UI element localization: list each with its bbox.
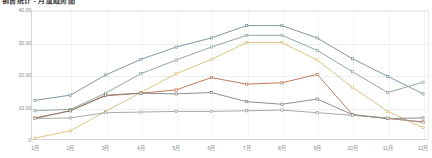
x-axis-tick-label: 1月 — [31, 144, 39, 151]
data-point-marker — [140, 111, 142, 113]
data-point-marker — [175, 93, 177, 95]
data-point-marker — [246, 41, 248, 43]
data-point-marker — [351, 58, 353, 60]
data-point-marker — [387, 117, 389, 119]
data-point-marker — [104, 94, 106, 96]
data-point-marker — [69, 130, 71, 132]
data-point-marker — [210, 58, 212, 60]
series-line-5 — [34, 91, 424, 119]
data-point-marker — [422, 121, 424, 123]
data-point-marker — [210, 110, 212, 112]
data-point-marker — [69, 117, 71, 119]
series-line-2 — [34, 34, 424, 112]
page-title: 销售统计 - 月度趋势图 — [2, 0, 75, 5]
data-point-marker — [316, 112, 318, 114]
data-point-marker — [246, 110, 248, 112]
y-axis-tick-label: 20.00 — [19, 72, 31, 78]
data-point-marker — [104, 74, 106, 76]
data-point-marker — [246, 25, 248, 27]
data-point-marker — [69, 94, 71, 96]
data-point-marker — [316, 73, 318, 75]
x-axis-tick-label: 4月 — [137, 144, 145, 151]
x-axis-tick-label: 8月 — [278, 144, 286, 151]
data-point-marker — [210, 77, 212, 79]
series-path — [35, 26, 423, 101]
data-point-marker — [246, 34, 248, 36]
data-point-marker — [422, 81, 424, 83]
data-point-marker — [34, 117, 36, 119]
data-point-marker — [387, 110, 389, 112]
data-point-marker — [422, 117, 424, 119]
data-point-marker — [104, 112, 106, 114]
series-container — [31, 10, 429, 140]
data-point-marker — [281, 82, 283, 84]
data-point-marker — [281, 25, 283, 27]
series-path — [35, 43, 423, 139]
data-point-marker — [351, 86, 353, 88]
x-axis-tick-label: 7月 — [243, 144, 251, 151]
series-path — [35, 35, 423, 110]
series-path — [35, 110, 423, 122]
x-axis-tick-label: 2月 — [66, 144, 74, 151]
data-point-marker — [281, 109, 283, 111]
x-axis-tick-label: 9月 — [313, 144, 321, 151]
data-point-marker — [175, 89, 177, 91]
data-point-marker — [422, 127, 424, 129]
data-point-marker — [34, 137, 36, 139]
series-line-6 — [34, 109, 424, 124]
data-point-marker — [69, 110, 71, 112]
data-point-marker — [175, 73, 177, 75]
data-point-marker — [281, 41, 283, 43]
x-axis-tick-label: 10月 — [347, 144, 357, 151]
series-line-4 — [34, 73, 424, 123]
data-point-marker — [34, 110, 36, 112]
data-point-marker — [422, 93, 424, 95]
data-point-marker — [351, 114, 353, 116]
data-point-marker — [140, 58, 142, 60]
data-point-marker — [246, 83, 248, 85]
data-point-marker — [281, 103, 283, 105]
data-point-marker — [210, 37, 212, 39]
data-point-marker — [246, 101, 248, 103]
data-point-marker — [316, 59, 318, 61]
data-point-marker — [140, 73, 142, 75]
y-axis-tick-label: 40.00 — [19, 7, 31, 13]
data-point-marker — [387, 91, 389, 93]
chart-screenshot: 销售统计 - 月度趋势图 40.0030.0020.0010.000 1月2月3… — [0, 0, 432, 158]
x-axis-tick-label: 5月 — [172, 144, 180, 151]
data-point-marker — [34, 99, 36, 101]
data-point-marker — [175, 46, 177, 48]
data-point-marker — [210, 46, 212, 48]
x-axis-tick-label: 11月 — [383, 144, 393, 151]
data-point-marker — [316, 49, 318, 51]
data-point-marker — [316, 37, 318, 39]
data-point-marker — [351, 71, 353, 73]
y-axis-tick-label: 10.00 — [19, 105, 31, 111]
data-point-marker — [387, 75, 389, 77]
data-point-marker — [140, 92, 142, 94]
x-axis-tick-label: 12月 — [418, 144, 428, 151]
data-point-marker — [210, 91, 212, 93]
data-point-marker — [175, 59, 177, 61]
series-line-1 — [34, 25, 424, 102]
y-axis-tick-label: 30.00 — [19, 40, 31, 46]
data-point-marker — [281, 34, 283, 36]
series-line-3 — [34, 41, 424, 139]
x-axis-tick-label: 3月 — [102, 144, 110, 151]
x-axis-tick-label: 6月 — [208, 144, 216, 151]
data-point-marker — [175, 110, 177, 112]
data-point-marker — [316, 98, 318, 100]
